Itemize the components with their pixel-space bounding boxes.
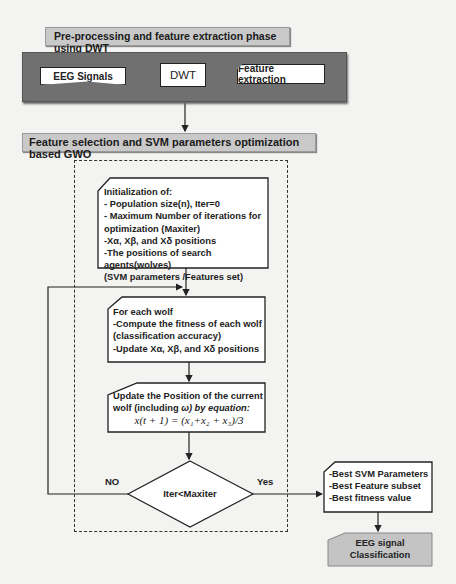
wolf-line: (classification accuracy) xyxy=(113,330,265,342)
step-feature-extraction: Feature extraction xyxy=(237,64,325,84)
decision-no-label: NO xyxy=(105,476,119,487)
phase1-title: Pre-processing and feature extraction ph… xyxy=(45,27,290,46)
result-line: -Best Feature subset xyxy=(329,480,432,492)
wolf-line: -Compute the fitness of each wolf xyxy=(113,318,265,330)
init-line: optimization (Maxiter) xyxy=(104,223,269,235)
init-line: -The positions of search agents(wolves) xyxy=(104,247,269,271)
init-line: Initialization of: xyxy=(104,186,269,198)
step-dwt: DWT xyxy=(160,63,206,87)
update-line-part: wolf (including xyxy=(113,403,181,413)
final-line: Classification xyxy=(328,550,432,562)
wolf-box-text: For each wolf -Compute the fitness of ea… xyxy=(113,306,265,355)
init-line: - Population size(n), Iter=0 xyxy=(104,198,269,210)
decision-yes-label: Yes xyxy=(257,476,273,487)
update-line: Update the Position of the current xyxy=(113,390,265,402)
update-line-italic: ω) by equation: xyxy=(181,403,250,413)
update-line: wolf (including ω) by equation: xyxy=(113,402,265,414)
init-line: - Maximum Number of iterations for xyxy=(104,210,269,222)
update-box-text: Update the Position of the current wolf … xyxy=(113,390,265,427)
result-line: -Best SVM Parameters xyxy=(329,468,432,480)
result-line: -Best fitness value xyxy=(329,492,432,504)
update-equation: x(t + 1) = (x₁+x₂ + x₃)/3 xyxy=(113,414,265,426)
wolf-line: For each wolf xyxy=(113,306,265,318)
wolf-line: -Update Xα, Xβ, and Xδ positions xyxy=(113,343,265,355)
init-line: -Xα, Xβ, and Xδ positions xyxy=(104,235,269,247)
final-box-text: EEG signal Classification xyxy=(328,538,432,561)
init-box-text: Initialization of: - Population size(n),… xyxy=(104,186,269,284)
final-line: EEG signal xyxy=(328,538,432,550)
decision-condition: Iter<Maxiter xyxy=(150,488,230,499)
phase2-title: Feature selection and SVM parameters opt… xyxy=(22,133,316,152)
result-box-text: -Best SVM Parameters -Best Feature subse… xyxy=(329,468,432,504)
init-line: (SVM parameters /Features set) xyxy=(104,271,269,283)
